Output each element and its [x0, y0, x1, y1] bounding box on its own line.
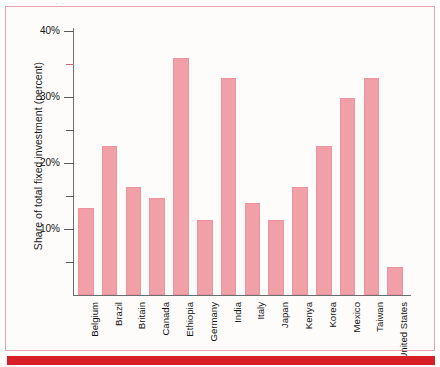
y-tick-minor	[66, 64, 74, 65]
bar	[268, 220, 284, 295]
y-tick-major	[64, 31, 74, 32]
bar	[78, 208, 94, 295]
bar	[387, 267, 403, 295]
bar	[364, 78, 380, 295]
y-tick-minor	[66, 262, 74, 263]
y-tick-label: 10%	[26, 223, 60, 234]
y-tick-major	[64, 229, 74, 230]
plot-area: Share of total fixed investment (percent…	[0, 0, 440, 367]
y-tick-major	[64, 163, 74, 164]
bar	[340, 98, 356, 295]
bar	[102, 146, 118, 295]
bar	[173, 58, 189, 295]
bar	[316, 146, 332, 295]
bar	[221, 78, 237, 295]
bar	[292, 187, 308, 295]
y-tick-label: 20%	[26, 157, 60, 168]
y-tick-minor	[66, 196, 74, 197]
y-tick-minor	[66, 130, 74, 131]
chart-figure: · · Share of total fixed investment (per…	[0, 0, 440, 367]
bar	[126, 187, 142, 295]
footer-red-band	[7, 356, 435, 365]
x-axis-line	[73, 295, 411, 296]
bar	[197, 220, 213, 295]
bar	[245, 203, 261, 295]
y-tick-major	[64, 97, 74, 98]
bar	[149, 198, 165, 295]
y-tick-label: 30%	[26, 91, 60, 102]
y-axis-line	[73, 28, 74, 296]
y-tick-label: 40%	[26, 25, 60, 36]
